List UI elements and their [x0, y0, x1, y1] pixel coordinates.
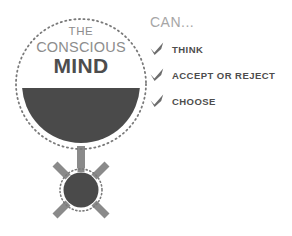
list-item: THINK [149, 38, 292, 60]
sun-core [64, 173, 99, 208]
infographic-canvas: THE CONSCIOUS MIND CAN... THINK [0, 0, 292, 236]
capabilities-panel: CAN... THINK ACCEPT OR REJECT [149, 14, 292, 116]
list-item-label: CHOOSE [172, 96, 216, 107]
bowl-fill [22, 25, 140, 143]
capabilities-header: CAN... [149, 14, 292, 30]
list-item-label: ACCEPT OR REJECT [172, 70, 275, 81]
list-item-label: THINK [172, 44, 203, 55]
list-item: CHOOSE [149, 90, 292, 112]
list-item: ACCEPT OR REJECT [149, 64, 292, 86]
capabilities-list: THINK ACCEPT OR REJECT CHOOSE [149, 38, 292, 112]
check-icon [149, 67, 165, 83]
conscious-mind-illustration: THE CONSCIOUS MIND [0, 0, 160, 236]
check-icon [149, 41, 165, 57]
check-icon [149, 93, 165, 109]
